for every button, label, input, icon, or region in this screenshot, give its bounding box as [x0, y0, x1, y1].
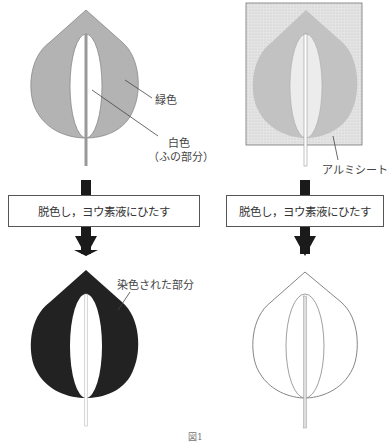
figure-caption: 図1 — [188, 430, 203, 443]
label-white-line1: 白色 — [168, 137, 190, 150]
label-aluminum-sheet: アルミシート — [322, 164, 388, 177]
leaf-stem — [85, 294, 87, 426]
step-box-left: 脱色し，ヨウ素液にひたす — [8, 195, 200, 227]
leaf-stem — [304, 296, 307, 428]
label-green: 緑色 — [155, 94, 177, 107]
leaf-unstained-result — [253, 272, 357, 428]
leaf-foil-covered — [246, 3, 362, 166]
step-box-right: 脱色し，ヨウ素液にひたす — [226, 195, 384, 227]
leaf-stained-result — [31, 270, 138, 426]
leaf-stem — [85, 34, 88, 166]
leaf-stem — [304, 34, 307, 166]
leaf-variegated-before — [31, 10, 158, 166]
label-white-line2: （ふの部分） — [148, 151, 214, 164]
label-stained: 染色された部分 — [117, 279, 194, 292]
